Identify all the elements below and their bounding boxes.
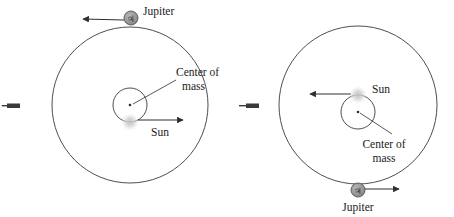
jupiter-symbol-left: ♃ (127, 14, 135, 24)
panel-left: ♃ Jupiter Sun Center of mass (2, 5, 220, 183)
center-of-mass-label-line1-left: Center of (176, 66, 219, 78)
edge-arrow-marker-right (239, 104, 259, 109)
jupiter-velocity-arrow-left (83, 19, 124, 20)
center-of-mass-dot-right (357, 111, 360, 114)
center-of-mass-dot-left (129, 104, 132, 107)
sun-body-right (349, 86, 367, 104)
panel-right: Sun Center of mass ♃ Jupiter (239, 26, 437, 214)
diagram-canvas: ♃ Jupiter Sun Center of mass (0, 0, 454, 217)
jupiter-label-right: Jupiter (342, 201, 373, 214)
jupiter-label-left: Jupiter (143, 5, 174, 18)
center-of-mass-label-line2-left: mass (182, 80, 206, 92)
center-of-mass-leader-line-right (360, 113, 392, 134)
figure-root: ♃ Jupiter Sun Center of mass (0, 0, 454, 217)
jupiter-symbol-right: ♃ (354, 186, 362, 196)
center-of-mass-label-line2-right: mass (373, 152, 397, 164)
sun-body-left (121, 113, 139, 131)
center-of-mass-label-line1-right: Center of (362, 138, 405, 150)
orbit-circle-right (279, 26, 437, 184)
edge-arrow-marker-left (2, 104, 21, 109)
center-of-mass-leader-line-left (133, 80, 176, 104)
sun-label-left: Sun (151, 126, 169, 138)
sun-label-right: Sun (372, 83, 390, 95)
